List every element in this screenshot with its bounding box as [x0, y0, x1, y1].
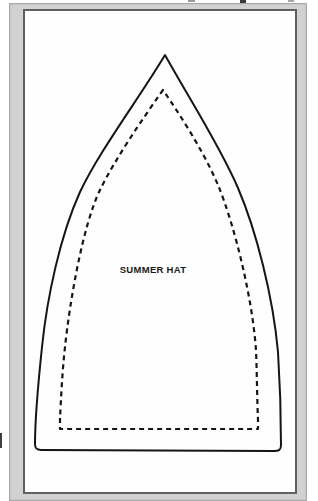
screenshot-root: SUMMER HAT [0, 0, 318, 501]
cropped-edge-remnant [0, 433, 2, 448]
pattern-piece-label: SUMMER HAT [107, 264, 199, 275]
cropped-text-remnant [188, 0, 195, 2]
pattern-sheet [23, 9, 297, 494]
cropped-text-remnant [288, 0, 294, 2]
